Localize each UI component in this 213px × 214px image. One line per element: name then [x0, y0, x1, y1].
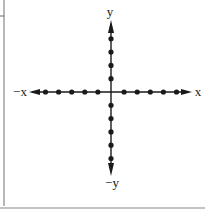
y-axis-point: [108, 156, 113, 161]
x-axis-point: [82, 89, 87, 94]
x-axis-right-arrow-icon: [181, 89, 192, 95]
x-axis-point: [122, 89, 127, 94]
y-axis-top-arrow-icon: [108, 20, 114, 33]
y-axis-point: [108, 116, 113, 121]
x-axis-point: [95, 89, 100, 94]
y-axis-point: [108, 103, 113, 108]
x-axis-point: [43, 89, 48, 94]
x-axis-point: [69, 89, 74, 94]
label-x-negative: −x: [13, 84, 27, 99]
x-axis-point: [161, 89, 166, 94]
x-axis-left-arrow-icon: [29, 89, 40, 95]
x-axis-point: [148, 89, 153, 94]
y-axis-point: [108, 143, 113, 148]
x-axis-point: [56, 89, 61, 94]
y-axis-point: [108, 63, 113, 68]
label-x-positive: x: [195, 84, 202, 99]
x-axis-point: [135, 89, 140, 94]
label-y-positive: y: [107, 4, 114, 19]
y-axis-point: [108, 76, 113, 81]
axes-group: [29, 20, 192, 176]
y-axis-point: [108, 36, 113, 41]
y-axis-point: [108, 129, 113, 134]
y-axis-point: [108, 50, 113, 55]
x-axis-point: [174, 89, 179, 94]
label-y-negative: −y: [105, 175, 119, 190]
coordinate-axes-diagram: y −y −x x: [0, 0, 213, 214]
